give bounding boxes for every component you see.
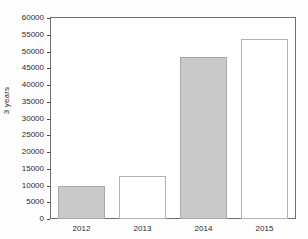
y-tick-label: 25000: [22, 131, 44, 139]
x-tick-label: 2014: [173, 224, 234, 233]
x-tick-label: 2013: [112, 224, 173, 233]
y-tick-label: 45000: [22, 64, 44, 72]
x-axis-tick-labels: 2012201320142015: [51, 224, 295, 238]
y-tick-label: 0: [40, 215, 44, 223]
y-tick-label: 40000: [22, 81, 44, 89]
x-tick-label: 2015: [234, 224, 295, 233]
bar-chart: 3 years 05000100001500020000250003000035…: [0, 0, 308, 239]
y-tick-label: 10000: [22, 182, 44, 190]
bar-2014: [180, 57, 226, 219]
bars-layer: [51, 18, 295, 219]
y-tick-label: 35000: [22, 98, 44, 106]
bar-2015: [241, 39, 287, 219]
y-tick-label: 55000: [22, 31, 44, 39]
x-tick-label: 2012: [51, 224, 112, 233]
y-tick-label: 50000: [22, 48, 44, 56]
y-tick-label: 5000: [26, 198, 44, 206]
bar-2012: [58, 186, 104, 219]
bar-2013: [119, 176, 165, 219]
y-tick-label: 15000: [22, 165, 44, 173]
y-tick-mark: [47, 219, 50, 220]
y-axis-tick-labels: 0500010000150002000025000300003500040000…: [0, 0, 48, 239]
y-tick-label: 30000: [22, 115, 44, 123]
y-tick-label: 60000: [22, 14, 44, 22]
y-tick-label: 20000: [22, 148, 44, 156]
